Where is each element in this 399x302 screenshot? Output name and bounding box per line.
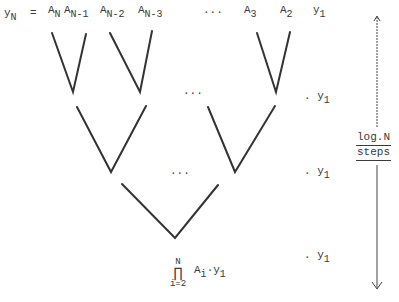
term-a-3: A3 [244, 5, 257, 16]
term-a-n-2: AN-2 [100, 5, 125, 16]
product-term: Ai·y1 [194, 265, 226, 276]
merge-v-1 [52, 33, 86, 92]
product-operator: N ∏ i=2 [168, 257, 188, 289]
steps-text: steps [356, 146, 391, 161]
level-3-label: . y1 [304, 250, 330, 261]
merge-v-3 [257, 32, 290, 92]
term-a-n: AN [48, 5, 61, 16]
equals-sign: = [30, 8, 37, 19]
product-symbol: ∏ [168, 267, 188, 279]
lhs-y-n: yN [4, 8, 17, 19]
top-ellipsis: ... [203, 5, 223, 16]
level-1-label: . y1 [304, 91, 330, 102]
level-1-ellipsis: ... [183, 86, 203, 97]
merge-v-6 [122, 184, 218, 238]
level-2-ellipsis: ... [170, 166, 190, 177]
term-a-n-1: AN-1 [64, 5, 89, 16]
term-y-1: y1 [313, 5, 326, 16]
tree-diagram [0, 0, 399, 302]
log-n-text: log.N [356, 131, 391, 146]
merge-v-5 [208, 106, 275, 172]
term-a-2: A2 [280, 5, 293, 16]
merge-v-4 [77, 106, 146, 172]
product-lower-limit: i=2 [168, 279, 188, 289]
merge-v-2 [110, 31, 152, 92]
log-n-steps-label: log.N steps [356, 131, 391, 161]
level-2-label: . y1 [304, 166, 330, 177]
term-a-n-3: AN-3 [138, 5, 163, 16]
